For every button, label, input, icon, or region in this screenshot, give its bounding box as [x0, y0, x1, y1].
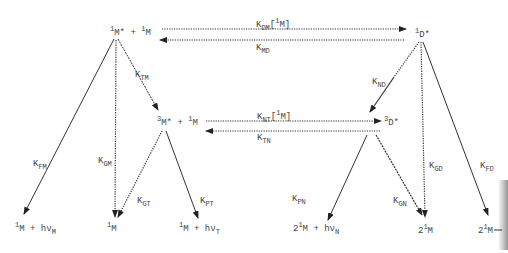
rate-K-GN: KGN	[393, 197, 407, 208]
rate-K-FD: KFD	[480, 162, 494, 173]
species-1M-star-plus-1M: 1M* + 1M	[110, 26, 151, 38]
rate-K-PT: KPT	[200, 197, 214, 208]
rate-K-GD: KGD	[429, 162, 443, 173]
arrow-GD	[421, 42, 425, 217]
product-2-1M-FD: 21M	[478, 224, 493, 236]
product-1M-plus-hv-M: 1M + hνM	[15, 222, 56, 236]
arrow-FD	[423, 42, 488, 215]
scan-edge-shadow	[498, 180, 508, 250]
rate-K-MD: KMD	[256, 44, 270, 55]
species-3D-star: 3D*	[384, 116, 399, 128]
rate-K-GT: KGT	[137, 197, 151, 208]
arrows-layer	[0, 0, 508, 253]
rate-K-ND: KND	[372, 78, 386, 89]
rate-K-TN: KTN	[257, 134, 271, 145]
product-2-1M-plus-hv-N: 21M + hνN	[293, 222, 339, 236]
arrow-GM	[115, 40, 116, 217]
product-1M-plus-hv-T: 1M + hνT	[179, 222, 220, 236]
rate-K-PN: KPN	[292, 195, 306, 206]
species-1D-star: 1D*	[415, 28, 430, 40]
arrow-FM	[24, 39, 114, 214]
rate-K-FM: KFM	[33, 160, 47, 171]
product-1M-GM: 1M	[107, 222, 117, 234]
rate-K-DM: KDM[1M]	[256, 18, 290, 32]
product-2-1M-GD: 21M	[418, 224, 433, 236]
arrow-PN	[328, 135, 367, 220]
rate-K-NT: KNT[1M]	[257, 110, 291, 124]
arrow-ND-part	[394, 42, 419, 77]
rate-K-GM: KGM	[98, 157, 112, 168]
rate-K-TM: KTM	[135, 71, 149, 82]
arrow-PT	[166, 131, 198, 218]
kinetic-scheme-diagram: 1M* + 1M 1D* 3M* + 1M 3D* 1M + hνM 1M 1M…	[0, 0, 508, 253]
species-3M-star-plus-1M: 3M* + 1M	[157, 116, 198, 128]
